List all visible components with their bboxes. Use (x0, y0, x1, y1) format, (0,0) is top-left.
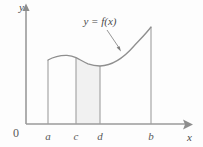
y-axis (22, 4, 29, 125)
x-axis (26, 120, 193, 130)
annotation-arrow (107, 30, 121, 52)
curve-equation-label: y = f(x) (82, 15, 116, 28)
tick-label-c: c (74, 130, 79, 142)
x-axis-label: x (186, 131, 192, 143)
math-figure-graph: y = f(x) y x 0 a c d b (0, 0, 203, 147)
origin-label: 0 (13, 126, 19, 140)
figure-canvas: y = f(x) y x 0 a c d b (0, 0, 203, 147)
function-curve (48, 27, 151, 66)
tick-label-d: d (97, 130, 103, 142)
y-axis-label: y (18, 1, 24, 13)
tick-label-b: b (148, 130, 154, 142)
shaded-region-cd (76, 58, 100, 124)
tick-label-a: a (45, 130, 51, 142)
ordinate-lines (48, 27, 151, 124)
